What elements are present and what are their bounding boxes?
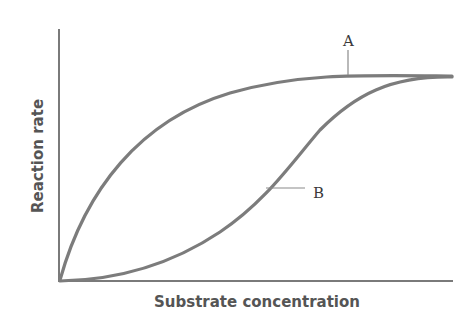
curve-a	[60, 75, 452, 280]
curve-b	[60, 77, 452, 281]
x-axis-label: Substrate concentration	[154, 293, 360, 311]
y-axis-label: Reaction rate	[29, 99, 47, 213]
label-b: B	[313, 184, 324, 202]
label-a: A	[342, 32, 354, 50]
reaction-rate-chart: A B Substrate concentration Reaction rat…	[0, 0, 476, 315]
